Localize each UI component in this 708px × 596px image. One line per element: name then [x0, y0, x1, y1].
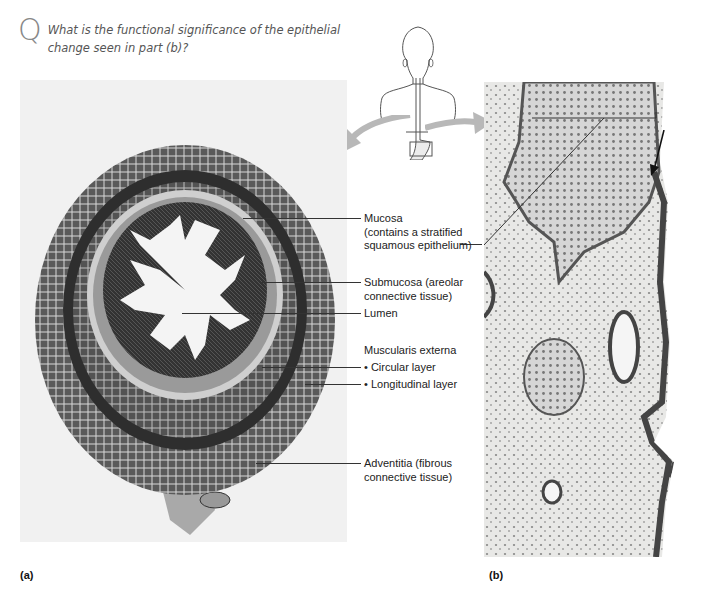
figure-label-a: (a) [20, 569, 33, 581]
leader-line-submucosa [262, 282, 361, 283]
question-text: What is the functional significance of t… [48, 23, 341, 55]
callout-lumen: Lumen [364, 307, 398, 321]
callout-longitudinal-layer: • Longitudinal layer [364, 378, 457, 392]
figure-label-b: (b) [489, 569, 503, 581]
leader-line-circular [262, 367, 361, 368]
callout-muscularis-externa: Muscularis externa [364, 344, 456, 358]
transition-arrow-icon [648, 130, 668, 178]
leader-line-mucosa [243, 218, 361, 219]
callout-adventitia: Adventitia (fibrous connective tissue) [364, 457, 452, 484]
leader-line-longitudinal [305, 384, 361, 385]
arrow-to-panel-a-icon [335, 115, 415, 160]
callout-submucosa: Submucosa (areolar connective tissue) [364, 276, 463, 303]
callout-circular-layer: • Circular layer [364, 361, 436, 375]
question-q-icon: Q [18, 18, 42, 42]
question-prompt: Q What is the functional significance of… [18, 20, 348, 56]
callout-mucosa: Mucosa (contains a stratified squamous e… [364, 212, 472, 253]
leader-line-lumen [182, 313, 361, 314]
leader-line-adventitia [256, 463, 361, 464]
micrograph-esophagus-cross-section [20, 80, 347, 542]
